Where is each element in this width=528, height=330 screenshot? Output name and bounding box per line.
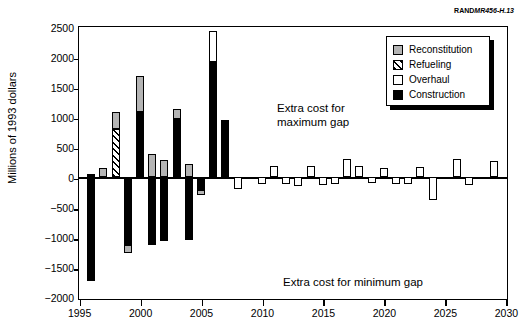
y-axis-title: Millions of 1993 dollars bbox=[6, 53, 18, 203]
bar-segment-overhaul bbox=[380, 168, 388, 178]
x-tick-label: 2020 bbox=[373, 307, 396, 319]
x-tick-mark bbox=[263, 300, 264, 306]
bar-segment-overhaul bbox=[258, 177, 266, 184]
bar-segment-reconstitution bbox=[197, 190, 205, 195]
bar-segment-overhaul bbox=[331, 177, 339, 183]
zero-baseline bbox=[79, 177, 507, 178]
bar-segment-overhaul bbox=[465, 177, 473, 185]
bar-segment-construction bbox=[173, 119, 181, 178]
bar-segment-overhaul bbox=[307, 166, 315, 178]
legend-item-overhaul: Overhaul bbox=[393, 72, 489, 87]
legend-label: Construction bbox=[409, 89, 465, 100]
bar-segment-overhaul bbox=[234, 177, 242, 189]
bar-segment-reconstitution bbox=[124, 245, 132, 253]
legend-swatch-refueling-icon bbox=[393, 60, 403, 70]
bar-segment-construction bbox=[197, 177, 205, 189]
bar-segment-reconstitution bbox=[185, 164, 193, 178]
bar-segment-overhaul bbox=[429, 177, 437, 200]
annotation-max-line2: maximum gap bbox=[277, 115, 349, 129]
x-tick-label: 1995 bbox=[68, 307, 91, 319]
bar-segment-reconstitution bbox=[112, 112, 120, 129]
bar-segment-overhaul bbox=[416, 167, 424, 177]
bar-segment-reconstitution bbox=[99, 168, 107, 178]
y-tick-mark bbox=[74, 209, 79, 210]
bar-segment-overhaul bbox=[282, 177, 290, 184]
bar-segment-reconstitution bbox=[173, 109, 181, 119]
bar-segment-overhaul bbox=[404, 177, 412, 184]
y-tick-mark bbox=[74, 89, 79, 90]
x-tick-mark bbox=[80, 300, 81, 306]
x-tick-mark bbox=[445, 300, 446, 306]
x-tick-mark bbox=[202, 300, 203, 306]
bar-segment-construction bbox=[185, 177, 193, 240]
y-tick-label: −500 bbox=[50, 202, 74, 214]
bar-segment-reconstitution bbox=[148, 154, 156, 177]
bar-segment-construction bbox=[87, 177, 95, 281]
bar-segment-construction bbox=[160, 177, 168, 240]
y-tick-label: 2000 bbox=[51, 52, 74, 64]
x-tick-label: 2010 bbox=[251, 307, 274, 319]
bar-segment-construction bbox=[87, 174, 95, 178]
y-tick-label: −1000 bbox=[45, 232, 75, 244]
bar-segment-overhaul bbox=[209, 31, 217, 62]
y-tick-mark bbox=[74, 239, 79, 240]
x-tick-label: 2030 bbox=[495, 307, 518, 319]
chart-root: RANDMR456-H.13 Millions of 1993 dollars … bbox=[0, 0, 528, 330]
y-tick-mark bbox=[74, 269, 79, 270]
y-tick-mark bbox=[74, 59, 79, 60]
x-tick-label: 2015 bbox=[312, 307, 335, 319]
x-tick-mark bbox=[141, 300, 142, 306]
bar-segment-overhaul bbox=[490, 161, 498, 177]
legend-swatch-construction-icon bbox=[393, 90, 403, 100]
x-tick-label: 2025 bbox=[434, 307, 457, 319]
x-tick-label: 2005 bbox=[190, 307, 213, 319]
bar-segment-construction bbox=[136, 112, 144, 178]
bar-segment-construction bbox=[124, 177, 132, 244]
y-tick-label: 1500 bbox=[51, 82, 74, 94]
x-axis: 19952000200520102015202020252030 bbox=[78, 300, 508, 326]
bar-segment-construction bbox=[209, 62, 217, 178]
y-tick-label: 2500 bbox=[51, 22, 74, 34]
y-tick-label: 500 bbox=[56, 142, 74, 154]
legend-item-construction: Construction bbox=[393, 87, 489, 102]
bar-segment-overhaul bbox=[343, 159, 351, 177]
bar-segment-overhaul bbox=[294, 177, 302, 185]
legend-label: Refueling bbox=[409, 59, 451, 70]
bar-segment-construction bbox=[148, 177, 156, 245]
bar-segment-overhaul bbox=[392, 177, 400, 184]
bar-segment-reconstitution bbox=[136, 76, 144, 112]
annotation-max-line1: Extra cost for bbox=[277, 101, 349, 115]
rand-label: RAND bbox=[454, 7, 474, 14]
x-tick-mark bbox=[323, 300, 324, 306]
y-tick-mark bbox=[74, 179, 79, 180]
y-tick-label: 0 bbox=[68, 172, 74, 184]
legend-item-reconstitution: Reconstitution bbox=[393, 42, 489, 57]
legend-swatch-overhaul-icon bbox=[393, 75, 403, 85]
y-tick-label: 1000 bbox=[51, 112, 74, 124]
bar-segment-construction bbox=[221, 120, 229, 178]
bar-segment-refueling bbox=[112, 129, 120, 177]
bar-segment-overhaul bbox=[368, 177, 376, 183]
y-axis: Millions of 1993 dollars 250020001500100… bbox=[0, 0, 74, 330]
legend-label: Overhaul bbox=[409, 74, 450, 85]
y-tick-mark bbox=[74, 149, 79, 150]
y-tick-label: −2000 bbox=[45, 292, 75, 304]
legend-item-refueling: Refueling bbox=[393, 57, 489, 72]
annotation-maximum-gap: Extra cost for maximum gap bbox=[277, 101, 349, 129]
bar-segment-overhaul bbox=[270, 166, 278, 177]
document-id: MR456-H.13 bbox=[474, 7, 514, 14]
y-tick-label: −1500 bbox=[45, 262, 75, 274]
y-tick-mark bbox=[74, 119, 79, 120]
annotation-minimum-gap: Extra cost for minimum gap bbox=[283, 275, 423, 289]
legend-label: Reconstitution bbox=[409, 44, 472, 55]
x-tick-mark bbox=[506, 300, 507, 306]
bar-segment-overhaul bbox=[319, 177, 327, 185]
x-tick-mark bbox=[384, 300, 385, 306]
bar-segment-overhaul bbox=[453, 159, 461, 178]
bar-segment-reconstitution bbox=[160, 160, 168, 177]
source-caption: RANDMR456-H.13 bbox=[454, 7, 514, 14]
legend-swatch-reconstitution-icon bbox=[393, 45, 403, 55]
bar-segment-overhaul bbox=[355, 166, 363, 177]
x-tick-label: 2000 bbox=[129, 307, 152, 319]
chart-legend: ReconstitutionRefuelingOverhaulConstruct… bbox=[386, 36, 490, 106]
